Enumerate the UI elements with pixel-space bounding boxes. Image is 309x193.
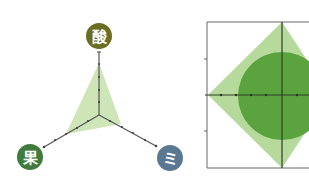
axis-fruit: [44, 115, 99, 147]
badge-fruit-label: 果: [22, 149, 39, 167]
radar-chart: 酸 果 ミ: [17, 23, 183, 171]
badge-acid: 酸: [86, 23, 112, 49]
chart-canvas: 酸 果 ミ: [0, 0, 309, 193]
badge-acid-label: 酸: [92, 28, 108, 46]
badge-fruit: 果: [17, 144, 43, 170]
badge-mi: ミ: [157, 145, 183, 171]
area-chart: [204, 22, 309, 168]
badge-mi-label: ミ: [163, 150, 178, 168]
axis-mi: [99, 115, 156, 146]
radar-profile-area: [66, 63, 121, 134]
